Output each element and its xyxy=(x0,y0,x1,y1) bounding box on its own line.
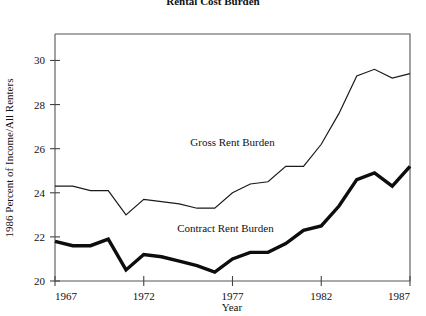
series-layer xyxy=(55,69,410,272)
plot-frame xyxy=(55,34,410,281)
chart-canvas: Rental Cost Burden 202224262830 19671972… xyxy=(0,0,426,316)
series-label-gross-rent-burden: Gross Rent Burden xyxy=(190,136,275,148)
y-tick-label: 26 xyxy=(34,143,46,155)
y-axis-ticks: 202224262830 xyxy=(34,54,60,287)
y-tick-label: 28 xyxy=(34,99,46,111)
x-tick-label: 1982 xyxy=(310,290,332,302)
series-line-contract-rent-burden xyxy=(55,166,410,272)
x-tick-label: 1987 xyxy=(388,290,411,302)
y-axis-label: 1986 Percent of Income/All Renters xyxy=(3,79,15,238)
rental-cost-burden-chart: Rental Cost Burden 202224262830 19671972… xyxy=(0,0,426,316)
x-tick-label: 1967 xyxy=(55,290,78,302)
series-labels: Gross Rent BurdenContract Rent Burden xyxy=(177,136,275,234)
x-tick-label: 1972 xyxy=(133,290,155,302)
chart-title: Rental Cost Burden xyxy=(166,0,260,7)
y-tick-label: 22 xyxy=(34,231,45,243)
y-tick-label: 24 xyxy=(34,187,46,199)
y-tick-label: 20 xyxy=(34,275,46,287)
y-tick-label: 30 xyxy=(34,54,46,66)
x-axis-ticks: 19671972197719821987 xyxy=(55,276,411,302)
series-label-contract-rent-burden: Contract Rent Burden xyxy=(177,222,274,234)
x-axis-label: Year xyxy=(222,301,243,313)
